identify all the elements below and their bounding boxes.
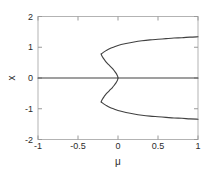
- x-tick-label-2: 0: [115, 142, 120, 151]
- y-tick-label-3: 1: [12, 43, 33, 52]
- x-axis-label: μ: [115, 157, 121, 167]
- y-tick-label-0: -2: [12, 135, 33, 144]
- x-tick-label-3: 0.5: [152, 142, 165, 151]
- x-tick-label-0: -1: [34, 142, 42, 151]
- y-axis-label: x: [7, 76, 17, 81]
- plot-canvas: [0, 0, 219, 175]
- bifurcation-diagram-figure: -1 -0.5 0 0.5 1 -2 -1 0 1 2 μ x: [0, 0, 219, 175]
- y-tick-label-4: 2: [12, 12, 33, 21]
- x-tick-label-1: -0.5: [70, 142, 86, 151]
- x-tick-label-4: 1: [195, 142, 200, 151]
- y-tick-label-1: -1: [12, 104, 33, 113]
